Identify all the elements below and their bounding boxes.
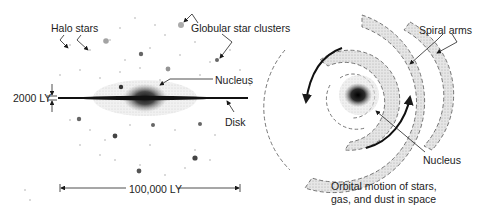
label-halo-stars: Halo stars — [51, 22, 98, 34]
globular-arrow-2 — [220, 34, 232, 58]
top-nucleus — [344, 83, 372, 107]
label-nucleus-side: Nucleus — [215, 74, 253, 86]
label-orbital-line1: Orbital motion of stars, — [331, 180, 437, 192]
halo-arrow-1 — [60, 35, 68, 48]
side-view — [24, 14, 250, 201]
label-orbital-line2: gas, and dust in space — [331, 193, 436, 205]
disk-center — [75, 96, 215, 100]
label-disk: Disk — [225, 116, 245, 128]
label-thickness: 2000 LY — [13, 92, 51, 104]
label-globular-clusters: Globular star clusters — [191, 22, 290, 34]
halo-arrow-2 — [77, 35, 88, 50]
label-nucleus-top: Nucleus — [423, 154, 461, 166]
galaxy-diagram: Halo stars Globular star clusters Nucleu… — [0, 0, 477, 216]
disk-arrow — [227, 101, 234, 112]
label-diameter: 100,000 LY — [129, 183, 182, 195]
far-left-arm-edge — [264, 50, 290, 170]
label-spiral-arms: Spiral arms — [419, 24, 472, 36]
